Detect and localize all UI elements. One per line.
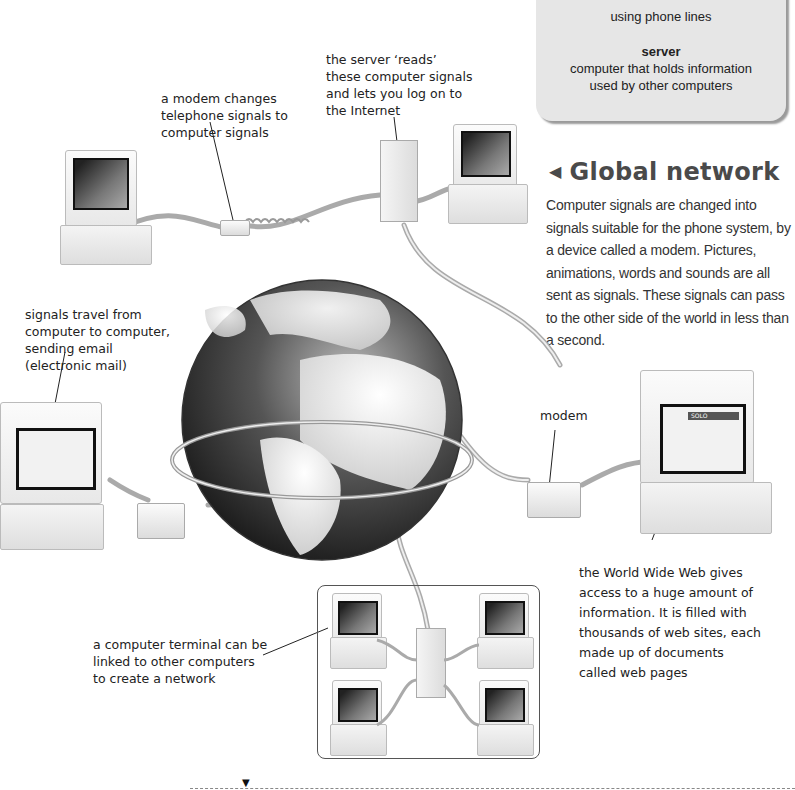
server-tower-top bbox=[380, 140, 418, 222]
modem-device-right bbox=[527, 482, 581, 518]
web-page-banner: SOLO bbox=[688, 412, 739, 420]
page-divider bbox=[190, 788, 795, 789]
caption-modem: modem bbox=[540, 407, 588, 424]
caption-modem-changes: a modem changes telephone signals to com… bbox=[161, 90, 288, 141]
caption-terminal-network: a computer terminal can be linked to oth… bbox=[93, 636, 267, 687]
caption-world-wide-web: the World Wide Web gives access to a hug… bbox=[579, 563, 761, 683]
caption-server-reads: the server ‘reads’ these computer signal… bbox=[326, 51, 472, 119]
network-cables bbox=[317, 585, 538, 757]
down-triangle-icon: ▼ bbox=[242, 777, 250, 788]
modem-device-left bbox=[137, 503, 185, 539]
caption-signals-travel: signals travel from computer to computer… bbox=[25, 306, 170, 374]
modem-device-top bbox=[220, 220, 250, 236]
